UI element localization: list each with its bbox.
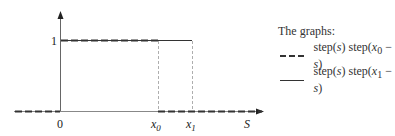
legend-text: step(s) step(x1 − s): [314, 64, 395, 95]
legend: The graphs: step(s) step(x0 − s) step(s)…: [278, 24, 395, 97]
legend-title: The graphs:: [278, 24, 395, 39]
s-axis-label: S: [244, 117, 250, 131]
y-tick-1: 1: [51, 34, 57, 48]
x0-label: x0: [150, 117, 161, 133]
dashed-line-swatch: [280, 55, 304, 57]
y-axis-arrow: [58, 11, 64, 19]
x1-label: x1: [185, 117, 196, 133]
legend-item-dashed: step(s) step(x0 − s): [278, 49, 395, 63]
legend-item-solid: step(s) step(x1 − s): [278, 73, 395, 87]
solid-line-swatch: [280, 80, 304, 81]
x-origin-label: 0: [57, 117, 63, 131]
